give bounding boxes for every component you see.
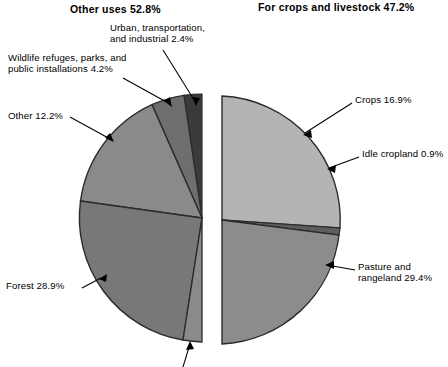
- slice-label-pasture-rangeland: Pasture and rangeland 29.4%: [358, 261, 432, 284]
- slice-forest: [79, 201, 202, 340]
- leader-line-wildlife: [123, 78, 170, 104]
- slice-label-urban-transportation-industrial: Urban, transportation, and industrial 2.…: [110, 22, 205, 45]
- arrowhead-bottom-slice: [186, 341, 194, 350]
- slice-label-crops: Crops 16.9%: [355, 94, 412, 105]
- pie-half-other-uses: [79, 94, 202, 342]
- slice-label-idle-cropland: Idle cropland 0.9%: [362, 148, 443, 159]
- group-header-crops-livestock: For crops and livestock 47.2%: [258, 1, 414, 13]
- group-header-other-uses: Other uses 52.8%: [70, 3, 161, 15]
- pie-chart-figure: Other uses 52.8% For crops and livestock…: [0, 0, 448, 367]
- leader-line-urban: [163, 50, 196, 103]
- slice-label-other: Other 12.2%: [8, 110, 63, 121]
- slice-crops: [222, 96, 340, 228]
- pie-half-crops-livestock: [222, 96, 340, 344]
- slice-label-wildlife-refuges-parks: Wildlife refuges, parks, and public inst…: [8, 52, 127, 75]
- leader-line-other: [70, 117, 112, 140]
- leader-line-crops: [305, 103, 352, 133]
- slice-pasture-rangeland: [222, 220, 339, 344]
- slice-label-forest: Forest 28.9%: [6, 280, 64, 291]
